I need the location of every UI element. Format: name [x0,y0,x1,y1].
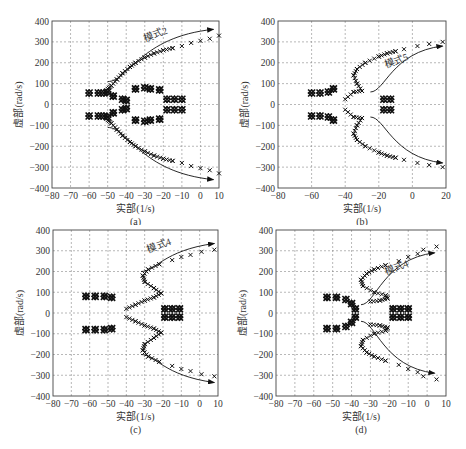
y-tick-label: −300 [30,371,50,381]
x-tick-label: 0 [198,191,203,201]
x-tick-label: −20 [382,399,397,409]
y-tick-label: −400 [29,184,49,194]
y-tick-label: −200 [255,142,275,152]
y-tick-label: 200 [259,267,274,277]
x-tick-label: 0 [197,399,202,409]
grid-lines [53,230,218,396]
x-tick-label: −70 [64,399,79,409]
y-tick-label: 100 [35,79,50,89]
mode-annotation: 模式4 [145,235,173,255]
chart-svg: −80−60−40−200204003002001000−100−200−300… [233,0,466,225]
y-tick-label: −100 [30,329,50,339]
y-tick-label: −400 [253,392,273,402]
x-tick-label: −20 [156,191,171,201]
chart-svg: −80−70−60−50−40−30−20−100104003002001000… [0,0,233,225]
mode-annotation: 模式2 [141,24,169,44]
y-axis-label: 虚部(rad/s) [238,81,251,127]
x-tick-label: −30 [363,399,378,409]
x-tick-label: −30 [137,399,152,409]
y-tick-label: −300 [253,371,273,381]
x-tick-label: −20 [156,399,171,409]
x-tick-label: −60 [82,399,97,409]
mode-annotation: 模式4 [382,257,410,277]
x-tick-label: −40 [338,191,353,201]
x-tick-label: −10 [401,399,416,409]
y-axis-label: 虚部(rad/s) [13,290,26,336]
y-tick-label: −300 [29,163,49,173]
y-tick-label: 300 [36,246,51,256]
grid-lines [52,21,219,188]
x-tick-label: −20 [371,191,386,201]
chart-panel-b: −80−60−40−200204003002001000−100−200−300… [233,0,466,225]
y-tick-label: −300 [255,163,275,173]
x-tick-label: −10 [174,191,189,201]
panel-caption: (d) [355,424,367,436]
chart-panel-a: −80−70−60−50−40−30−20−100104003002001000… [0,0,233,225]
y-tick-label: 400 [35,17,50,27]
y-tick-label: 0 [268,309,273,319]
x-tick-label: −70 [63,191,78,201]
y-tick-label: −200 [253,350,273,360]
x-axis-label: 实部(1/s) [116,410,154,423]
y-tick-label: 300 [35,37,50,47]
x-tick-label: −40 [119,191,134,201]
y-axis-label: 虚部(rad/s) [236,290,249,336]
panel-caption: (a) [130,216,141,225]
y-tick-label: −100 [253,329,273,339]
x-tick-label: −50 [101,399,116,409]
y-tick-label: 0 [270,100,275,110]
x-tick-label: 10 [441,399,451,409]
grid-lines [278,21,446,188]
x-axis-label: 实部(1/s) [343,202,381,215]
axis-ticks: −80−60−40−200204003002001000−100−200−300… [255,17,451,202]
x-tick-label: −60 [304,191,319,201]
y-tick-label: 100 [36,288,51,298]
data-points [308,40,445,169]
x-tick-label: −10 [174,399,189,409]
y-tick-label: 0 [45,309,50,319]
chart-panel-d: −80−70−60−50−40−30−20−100104003002001000… [233,225,466,449]
x-tick-label: −60 [82,191,97,201]
x-tick-label: 0 [410,191,415,201]
y-tick-label: 200 [261,58,276,68]
x-tick-label: −50 [325,399,340,409]
panel-caption: (c) [130,424,141,436]
y-tick-label: 300 [259,246,274,256]
grid-lines [276,230,446,396]
y-tick-label: 400 [36,226,51,236]
x-tick-label: 0 [425,399,430,409]
x-tick-label: −40 [119,399,134,409]
y-tick-label: 0 [44,100,49,110]
y-tick-label: −400 [30,392,50,402]
y-tick-label: 200 [35,58,50,68]
x-tick-label: 10 [213,399,223,409]
chart-svg: −80−70−60−50−40−30−20−100104003002001000… [233,225,466,449]
x-tick-label: −40 [344,399,359,409]
chart-svg: −80−70−60−50−40−30−20−100104003002001000… [0,225,233,449]
y-tick-label: 200 [36,267,51,277]
y-tick-label: 100 [261,79,276,89]
y-tick-label: −100 [29,121,49,131]
trend-arrow [370,117,442,163]
x-axis-label: 实部(1/s) [342,410,380,423]
x-tick-label: −70 [287,399,302,409]
y-axis-label: 虚部(rad/s) [12,81,25,127]
y-tick-label: −200 [29,142,49,152]
y-tick-label: −100 [255,121,275,131]
x-tick-label: 20 [441,191,451,201]
x-axis-label: 实部(1/s) [116,202,154,215]
x-tick-label: 10 [214,191,224,201]
y-tick-label: 100 [259,288,274,298]
panel-caption: (b) [356,216,368,225]
x-tick-label: −60 [306,399,321,409]
y-tick-label: 300 [261,37,276,47]
y-tick-label: −400 [255,184,275,194]
x-tick-label: −30 [137,191,152,201]
chart-panel-c: −80−70−60−50−40−30−20−100104003002001000… [0,225,233,449]
y-tick-label: 400 [259,226,274,236]
y-tick-label: 400 [261,17,276,27]
y-tick-label: −200 [30,350,50,360]
x-tick-label: −50 [100,191,115,201]
